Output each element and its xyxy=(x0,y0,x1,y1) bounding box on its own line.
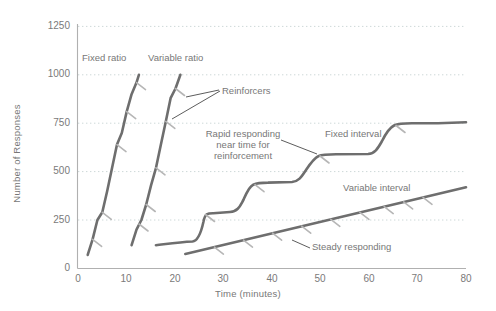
curve-fixed-ratio xyxy=(88,75,139,255)
reinforcer-marks-fixed-ratio xyxy=(93,83,146,247)
cumulative-response-chart: 1250 1000 750 500 250 0 0 10 20 30 40 50… xyxy=(0,0,496,311)
ytick-500: 500 xyxy=(30,165,70,176)
annotation-rapid-responding-line1: Rapid responding xyxy=(198,128,288,139)
leader-lines xyxy=(172,90,317,248)
annotation-rapid-responding-line3: reinforcement xyxy=(198,150,288,161)
ytick-1250: 1250 xyxy=(30,20,70,31)
xtick-0: 0 xyxy=(58,273,98,284)
ytick-250: 250 xyxy=(30,214,70,225)
xtick-60: 60 xyxy=(349,273,389,284)
annotation-rapid-responding-line2: near time for xyxy=(198,139,288,150)
xtick-20: 20 xyxy=(155,273,195,284)
ytick-1000: 1000 xyxy=(30,68,70,79)
x-axis-title: Time (minutes) xyxy=(0,288,496,299)
xtick-10: 10 xyxy=(106,273,146,284)
leader-reinforcers-upper xyxy=(186,90,219,97)
annotation-variable-ratio: Variable ratio xyxy=(148,52,203,63)
xtick-80: 80 xyxy=(446,273,486,284)
annotation-variable-interval: Variable interval xyxy=(343,182,410,193)
leader-steady-responding xyxy=(292,240,310,248)
xtick-70: 70 xyxy=(397,273,437,284)
ytick-0: 0 xyxy=(30,262,70,273)
annotation-fixed-interval: Fixed interval xyxy=(325,128,382,139)
xtick-40: 40 xyxy=(252,273,292,284)
xtick-30: 30 xyxy=(203,273,243,284)
ytick-750: 750 xyxy=(30,117,70,128)
annotation-fixed-ratio: Fixed ratio xyxy=(82,52,126,63)
annotation-reinforcers: Reinforcers xyxy=(222,85,271,96)
annotation-steady-responding: Steady responding xyxy=(312,241,391,252)
y-axis-title: Number of Responses xyxy=(11,104,22,204)
xtick-50: 50 xyxy=(300,273,340,284)
